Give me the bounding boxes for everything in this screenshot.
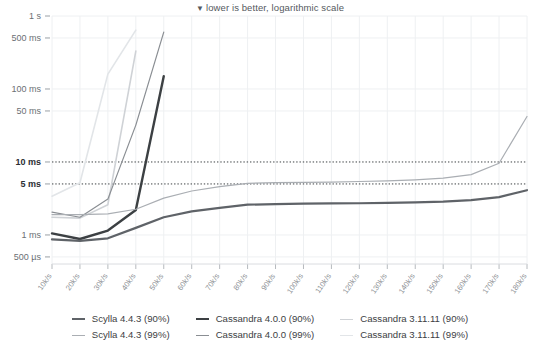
plot-area: 1 s500 ms100 ms50 ms10 ms5 ms1 ms500 µs1… [0, 0, 540, 310]
latency-chart: ▼lower is better, logarithmic scale 1 s5… [0, 0, 540, 347]
x-tick-label-9: 100k/s [285, 272, 305, 296]
legend-scylla-99[interactable]: Scylla 4.4.3 (99%) [72, 327, 170, 343]
legend-swatch-icon [72, 335, 85, 336]
x-tick-label-6: 70k/s [203, 272, 221, 292]
legend-label: Cassandra 4.0.0 (90%) [216, 311, 315, 327]
y-tick-label-3: 50 ms [16, 106, 41, 116]
x-tick-label-14: 150k/s [425, 272, 445, 296]
x-tick-label-7: 80k/s [231, 272, 249, 292]
legend-cassandra400-99[interactable]: Cassandra 4.0.0 (99%) [196, 327, 315, 343]
legend-swatch-icon [196, 335, 209, 336]
series-line-5 [52, 30, 136, 196]
y-tick-label-0: 1 s [29, 11, 42, 21]
legend-swatch-icon [340, 335, 353, 336]
x-tick-label-16: 170k/s [480, 272, 500, 296]
legend-swatch-icon [196, 318, 209, 320]
legend-scylla-90[interactable]: Scylla 4.4.3 (90%) [72, 311, 170, 327]
series-line-0 [52, 190, 527, 241]
y-tick-label-4: 10 ms [15, 157, 41, 167]
y-tick-label-1: 500 ms [11, 33, 41, 43]
legend-label: Cassandra 4.0.0 (99%) [216, 327, 315, 343]
x-tick-label-1: 20k/s [64, 272, 82, 292]
x-tick-label-13: 140k/s [397, 272, 417, 296]
legend-label: Scylla 4.4.3 (90%) [92, 311, 170, 327]
x-tick-label-10: 110k/s [313, 272, 333, 295]
x-tick-label-2: 30k/s [92, 272, 110, 292]
legend-swatch-icon [72, 318, 85, 320]
legend-cassandra400-90[interactable]: Cassandra 4.0.0 (90%) [196, 311, 315, 327]
legend-label: Cassandra 3.11.11 (99%) [360, 327, 468, 343]
x-tick-label-4: 50k/s [148, 272, 166, 292]
y-tick-label-5: 5 ms [20, 179, 41, 189]
x-tick-label-17: 180k/s [508, 272, 528, 296]
legend-cassandra31111-99[interactable]: Cassandra 3.11.11 (99%) [340, 327, 468, 343]
y-tick-label-6: 1 ms [21, 230, 41, 240]
x-tick-label-11: 120k/s [341, 272, 361, 296]
x-tick-label-8: 90k/s [259, 272, 277, 292]
legend-cassandra31111-90[interactable]: Cassandra 3.11.11 (90%) [340, 311, 468, 327]
x-tick-label-5: 60k/s [176, 272, 194, 292]
y-tick-label-2: 100 ms [11, 84, 41, 94]
x-tick-label-0: 10k/s [36, 272, 54, 292]
legend-label: Scylla 4.4.3 (99%) [92, 327, 170, 343]
y-tick-label-7: 500 µs [14, 252, 42, 262]
chart-legend: Scylla 4.4.3 (90%)Cassandra 4.0.0 (90%)C… [0, 311, 540, 343]
x-tick-label-15: 160k/s [453, 272, 473, 296]
x-tick-label-3: 40k/s [120, 272, 138, 292]
legend-swatch-icon [340, 319, 353, 320]
series-line-4 [52, 51, 136, 218]
x-tick-label-12: 130k/s [369, 272, 389, 296]
legend-label: Cassandra 3.11.11 (90%) [360, 311, 468, 327]
